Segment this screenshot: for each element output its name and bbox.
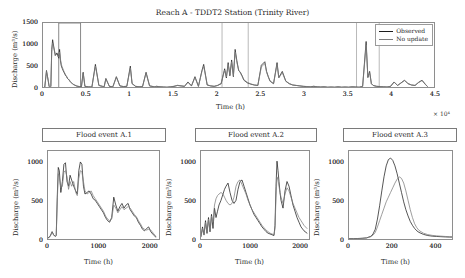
subplot-a2: Flood event A.2 Discharge (m³/s) 0500100…	[163, 128, 323, 278]
ytick-label: 500	[332, 197, 344, 204]
ytick-label: 1500	[22, 18, 38, 25]
subplot-a1-title: Flood event A.1	[42, 128, 166, 142]
xtick-label: 4	[389, 90, 393, 97]
subplot-a1-ylabel: Discharge (m³/s)	[12, 179, 20, 236]
subplot-a2-svg	[201, 151, 310, 240]
xtick-label: 3.5	[343, 90, 353, 97]
subplot-a3-svg	[349, 151, 453, 240]
subplot-a2-xlabel: Time (h)	[235, 258, 264, 266]
xtick-label: 400	[430, 242, 442, 249]
figure-title: Reach A - TDDT2 Station (Trinity River)	[0, 8, 465, 17]
xtick-label: 2000	[142, 242, 158, 249]
xtick-label: 0	[198, 242, 202, 249]
ytick-label: 500	[184, 197, 196, 204]
xtick-label: 2	[215, 90, 219, 97]
ytick-label: 1000	[22, 40, 38, 47]
subplot-a2-ylabel: Discharge (m³/s)	[165, 179, 173, 236]
xtick-label: 1000	[242, 242, 258, 249]
legend-swatch-no-update	[379, 39, 393, 40]
ytick-label: 0	[192, 236, 196, 243]
trace-no-update	[201, 177, 307, 237]
xtick-label: 0	[40, 90, 44, 97]
xtick-label: 0	[346, 242, 350, 249]
subplot-a1-plot-area	[47, 150, 160, 240]
ytick-label: 1000	[328, 158, 344, 165]
xtick-label: 1	[127, 90, 131, 97]
subplot-a2-title: Flood event A.2	[195, 128, 317, 142]
legend-item-no-update: No update	[379, 35, 428, 43]
legend-label-no-update: No update	[396, 35, 428, 43]
ytick-label: 500	[26, 62, 38, 69]
main-xlabel: Time (h)	[216, 103, 245, 111]
legend-swatch-observed	[379, 31, 393, 32]
legend-label-observed: Observed	[396, 27, 425, 35]
region-box-0	[59, 23, 81, 88]
trace-no-update	[48, 171, 156, 239]
subplot-a3-xlabel: Time (h)	[381, 258, 410, 266]
xtick-label: 200	[386, 242, 398, 249]
legend-item-observed: Observed	[379, 27, 428, 35]
ytick-label: 0	[34, 84, 38, 91]
ytick-label: 500	[31, 197, 43, 204]
trace-observed	[349, 158, 453, 239]
subplot-a1-svg	[48, 151, 160, 240]
subplot-a2-plot-area	[200, 150, 310, 240]
xtick-label: 1000	[90, 242, 106, 249]
trace-observed	[48, 162, 156, 238]
ytick-label: 1000	[180, 158, 196, 165]
main-plot-panel: Observed No update	[42, 22, 435, 88]
xtick-label: 2000	[292, 242, 308, 249]
main-x-exponent: × 10⁴	[433, 110, 450, 117]
ytick-label: 0	[340, 236, 344, 243]
subplot-a3: Flood event A.3 Discharge (m³/s) 0500100…	[325, 128, 465, 278]
legend: Observed No update	[375, 24, 433, 46]
subplot-a3-ylabel: Discharge (m³/s)	[313, 179, 321, 236]
xtick-label: 0	[45, 242, 49, 249]
ytick-label: 1000	[27, 158, 43, 165]
trace-observed	[201, 161, 307, 236]
trace-no-update	[349, 177, 453, 239]
xtick-label: 2.5	[255, 90, 265, 97]
subplot-a1: Flood event A.1 Discharge (m³/s) 0500100…	[0, 128, 168, 278]
subplot-a1-xlabel: Time (h)	[84, 258, 113, 266]
trace-observed	[43, 40, 427, 88]
subplot-a3-title: Flood event A.3	[343, 128, 457, 142]
subplot-a3-plot-area	[348, 150, 453, 240]
xtick-label: 4.5	[430, 90, 440, 97]
main-ylabel: Discharge (m³/s)	[11, 31, 19, 88]
ytick-label: 0	[39, 236, 43, 243]
xtick-label: 0.5	[81, 90, 91, 97]
xtick-label: 3	[302, 90, 306, 97]
figure-root: Reach A - TDDT2 Station (Trinity River) …	[0, 0, 465, 278]
xtick-label: 1.5	[168, 90, 178, 97]
